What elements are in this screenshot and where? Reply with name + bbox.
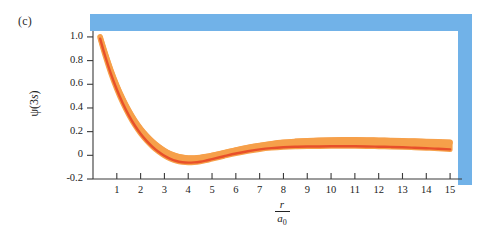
x-axis-ticks: [117, 173, 450, 179]
y-axis-ticks: [87, 37, 93, 179]
y-tick-label: 0.4: [45, 101, 83, 112]
x-axis-label: r a0: [252, 199, 312, 227]
x-tick-label: 3: [152, 184, 176, 195]
x-tick-label: 5: [200, 184, 224, 195]
data-curves: [100, 37, 450, 163]
x-tick-label: 13: [390, 184, 414, 195]
y-tick-label: 0.8: [45, 54, 83, 65]
y-tick-label: -0.2: [45, 172, 83, 183]
x-tick-label: 14: [414, 184, 438, 195]
x-tick-label: 1: [105, 184, 129, 195]
x-tick-label: 9: [295, 184, 319, 195]
axis-lines: [93, 31, 462, 179]
x-tick-label: 6: [224, 184, 248, 195]
x-axis-label-denominator: a0: [252, 212, 312, 227]
x-tick-label: 15: [438, 184, 462, 195]
x-tick-label: 11: [343, 184, 367, 195]
x-tick-label: 7: [248, 184, 272, 195]
y-axis-label: ψ(3s): [27, 64, 42, 144]
x-axis-label-numerator: r: [252, 199, 312, 211]
y-axis-label-italic: s: [27, 94, 41, 99]
y-tick-label: 0.6: [45, 77, 83, 88]
y-axis-label-prefix: ψ(3: [27, 99, 41, 117]
figure-panel: (c) -0.200.20.40.60.81.0 123456789101112…: [0, 0, 493, 234]
y-axis-label-suffix: ): [27, 90, 41, 94]
y-tick-label: 1.0: [45, 30, 83, 41]
x-tick-label: 2: [129, 184, 153, 195]
x-axis-label-denominator-sub: 0: [283, 218, 287, 227]
x-tick-label: 10: [319, 184, 343, 195]
x-tick-label: 4: [176, 184, 200, 195]
psi-upper-curve: [100, 37, 450, 158]
x-tick-label: 8: [271, 184, 295, 195]
x-tick-label: 12: [367, 184, 391, 195]
y-tick-label: 0.2: [45, 125, 83, 136]
y-tick-label: 0: [45, 148, 83, 159]
